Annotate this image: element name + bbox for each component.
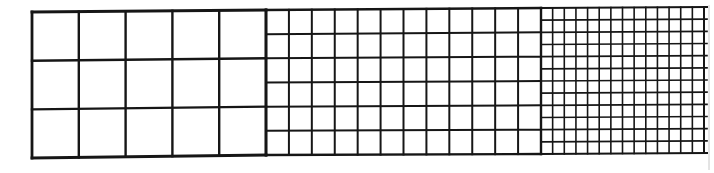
coarse-grid: [32, 10, 266, 158]
horizontal-grid-line: [541, 80, 707, 81]
horizontal-grid-line: [32, 10, 266, 12]
horizontal-grid-line: [541, 141, 707, 142]
horizontal-grid-line: [541, 44, 707, 45]
horizontal-grid-line: [541, 68, 707, 69]
horizontal-grid-line: [541, 7, 707, 8]
horizontal-grid-line: [541, 56, 707, 57]
horizontal-grid-line: [32, 58, 266, 60]
horizontal-grid-line: [266, 130, 541, 131]
horizontal-grid-line: [266, 32, 541, 34]
horizontal-grid-line: [266, 8, 541, 10]
horizontal-grid-line: [541, 129, 707, 130]
horizontal-grid-line: [541, 31, 707, 32]
horizontal-grid-line: [32, 107, 266, 110]
fine-grid: [541, 7, 707, 154]
grid-layer: [32, 5, 709, 170]
horizontal-grid-line: [541, 117, 707, 118]
grid-diagram: [0, 0, 714, 173]
horizontal-grid-line: [541, 153, 707, 154]
horizontal-grid-line: [541, 92, 707, 93]
medium-grid: [266, 8, 541, 155]
horizontal-grid-line: [541, 104, 707, 105]
horizontal-grid-line: [541, 19, 707, 20]
horizontal-grid-line: [266, 57, 541, 59]
horizontal-grid-line: [266, 81, 541, 83]
horizontal-grid-line: [266, 154, 541, 155]
horizontal-grid-line: [32, 155, 266, 158]
horizontal-grid-line: [266, 105, 541, 106]
